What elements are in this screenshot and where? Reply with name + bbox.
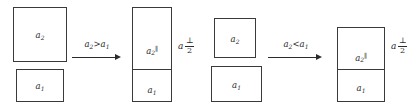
box-label-a1: a1 bbox=[17, 82, 63, 92]
box-a2-initial-left: a2 bbox=[13, 7, 67, 62]
arrow-2-line bbox=[268, 57, 317, 58]
box-label-a1-combined: a1 bbox=[133, 86, 171, 96]
box-a1-initial-left: a1 bbox=[16, 69, 64, 102]
box-label-a2: a2 bbox=[14, 31, 66, 41]
combined-box-divider-right bbox=[338, 69, 384, 70]
arrow-2-head bbox=[316, 54, 322, 60]
annotation-a-perp-half-right: a ⊥ 2 bbox=[391, 37, 407, 55]
arrow-1-condition-label: a2>a1 bbox=[72, 40, 122, 50]
perpendicular-symbol-right: ⊥ bbox=[398, 37, 408, 46]
box-combined-left: a2∥ a1 bbox=[132, 7, 172, 102]
annotation-variable: a bbox=[178, 42, 183, 51]
annotation-a-perp-half-left: a ⊥ 2 bbox=[178, 37, 194, 55]
combined-box-divider-left bbox=[133, 69, 171, 70]
box-a1-initial-right: a1 bbox=[211, 66, 262, 102]
fraction-perp-over-two: ⊥ 2 bbox=[185, 37, 195, 55]
arrow-group-2: a2<a1 bbox=[268, 40, 324, 62]
transformation-diagram: a2 a1 a2>a1 a2∥ a1 a ⊥ 2 bbox=[0, 0, 418, 108]
box-a2-initial-right: a2 bbox=[214, 18, 256, 58]
box-label-a2-right: a2 bbox=[215, 35, 255, 45]
arrow-group-1: a2>a1 bbox=[72, 40, 122, 62]
arrow-1-head bbox=[115, 54, 121, 60]
parallel-symbol-right: ∥ bbox=[364, 52, 367, 60]
box-label-a1-right: a1 bbox=[212, 81, 261, 91]
parallel-symbol: ∥ bbox=[155, 45, 158, 53]
annotation-variable-right: a bbox=[391, 42, 396, 51]
box-label-a1-combined-right: a1 bbox=[338, 84, 384, 94]
arrow-1-line bbox=[72, 57, 116, 58]
box-label-a2-parallel: a2∥ bbox=[133, 46, 171, 56]
perpendicular-symbol: ⊥ bbox=[185, 37, 195, 46]
fraction-denominator: 2 bbox=[186, 47, 193, 56]
box-combined-right: a2∥ a1 bbox=[337, 27, 385, 102]
box-label-a2-parallel-right: a2∥ bbox=[338, 53, 384, 63]
fraction-denominator-right: 2 bbox=[399, 47, 406, 56]
fraction-perp-over-two-right: ⊥ 2 bbox=[398, 37, 408, 55]
arrow-2-condition-label: a2<a1 bbox=[268, 40, 324, 50]
